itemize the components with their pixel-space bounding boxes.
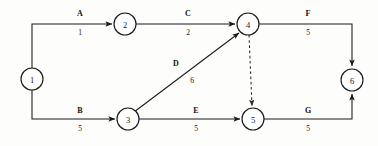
node-1-label: 1 (30, 75, 34, 85)
edge-A-name: A (77, 9, 83, 18)
edge-D-name: D (173, 59, 179, 68)
node-6[interactable]: 6 (341, 69, 363, 91)
node-3-label: 3 (126, 115, 130, 125)
node-2[interactable]: 2 (114, 13, 136, 35)
network-diagram-canvas: A 1 C 2 F 5 B 5 E 5 G (0, 0, 378, 146)
edge-B-value: 5 (78, 124, 82, 133)
edge-C: C 2 (136, 9, 235, 37)
edge-A: A 1 (32, 9, 112, 68)
node-5[interactable]: 5 (242, 108, 264, 130)
edge-D-value: 6 (190, 76, 194, 85)
node-2-label: 2 (123, 20, 127, 30)
edge-B-name: B (77, 106, 83, 115)
node-3[interactable]: 3 (117, 108, 139, 130)
node-6-label: 6 (350, 76, 354, 86)
edge-E-value: 5 (194, 124, 198, 133)
edge-C-name: C (185, 9, 191, 18)
edge-E-name: E (193, 106, 198, 115)
network-diagram: A 1 C 2 F 5 B 5 E 5 G (0, 0, 378, 146)
edge-B: B 5 (32, 90, 115, 133)
edge-G-name: G (305, 106, 311, 115)
edge-dummy (249, 35, 252, 106)
edge-A-line (32, 24, 112, 68)
edge-dummy-line (249, 35, 252, 106)
edge-G-value: 5 (306, 124, 310, 133)
edge-G: G 5 (264, 94, 352, 133)
edge-A-value: 1 (78, 28, 82, 37)
edge-D: D 6 (134, 33, 239, 112)
edge-B-line (32, 90, 115, 119)
edge-F: F 5 (259, 9, 352, 66)
edge-C-value: 2 (186, 28, 190, 37)
edge-D-line (134, 33, 239, 112)
edge-F-name: F (306, 9, 311, 18)
node-1[interactable]: 1 (21, 68, 43, 90)
edge-F-value: 5 (306, 28, 310, 37)
edge-E: E 5 (139, 106, 240, 133)
node-4[interactable]: 4 (237, 13, 259, 35)
node-5-label: 5 (251, 115, 255, 125)
